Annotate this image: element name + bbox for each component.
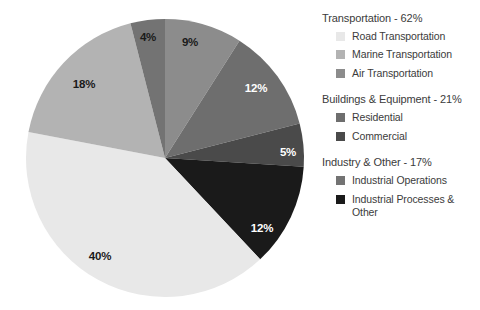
legend-item[interactable]: Residential	[322, 111, 480, 124]
pie-slice-value-label: 12%	[245, 82, 267, 94]
legend-swatch-icon	[336, 69, 345, 78]
pie-slice-value-label: 40%	[89, 250, 111, 262]
legend-item-label: Commercial	[352, 130, 407, 143]
legend-item[interactable]: Marine Transportation	[322, 48, 480, 61]
legend-item-label: Road Transportation	[352, 30, 445, 43]
pie-chart-figure: 9%12%5%12%40%18%4% Transportation - 62%R…	[0, 0, 480, 310]
legend-item-label: Marine Transportation	[352, 48, 452, 61]
legend-item[interactable]: Air Transportation	[322, 67, 480, 80]
legend-item-label: Air Transportation	[352, 67, 433, 80]
pie-slice-value-label: 18%	[73, 78, 95, 90]
pie-slice-value-label: 5%	[280, 146, 296, 158]
legend-swatch-icon	[336, 176, 345, 185]
legend-group: Transportation - 62%Road TransportationM…	[322, 12, 480, 80]
chart-legend: Transportation - 62%Road TransportationM…	[322, 12, 480, 220]
legend-item[interactable]: Industrial Operations	[322, 174, 480, 187]
legend-group: Buildings & Equipment - 21%ResidentialCo…	[322, 93, 480, 143]
legend-item[interactable]: Road Transportation	[322, 30, 480, 43]
legend-swatch-icon	[336, 195, 345, 204]
legend-swatch-icon	[336, 132, 345, 141]
legend-item[interactable]: Commercial	[322, 130, 480, 143]
legend-item-label: Residential	[352, 111, 403, 124]
legend-swatch-icon	[336, 50, 345, 59]
pie-slice-value-label: 4%	[140, 31, 156, 43]
legend-group-title: Industry & Other - 17%	[322, 156, 480, 168]
pie-slice-value-label: 9%	[182, 36, 198, 48]
pie-chart-plot-area: 9%12%5%12%40%18%4%	[0, 0, 315, 310]
legend-item-label: Industrial Processes & Other	[352, 193, 480, 220]
legend-group-title: Transportation - 62%	[322, 12, 480, 24]
pie-slices-svg	[0, 0, 315, 310]
legend-item[interactable]: Industrial Processes & Other	[322, 193, 480, 220]
legend-swatch-icon	[336, 113, 345, 122]
legend-group-title: Buildings & Equipment - 21%	[322, 93, 480, 105]
legend-group: Industry & Other - 17%Industrial Operati…	[322, 156, 480, 219]
pie-slice-value-label: 12%	[251, 222, 273, 234]
legend-item-label: Industrial Operations	[352, 174, 447, 187]
legend-swatch-icon	[336, 32, 345, 41]
